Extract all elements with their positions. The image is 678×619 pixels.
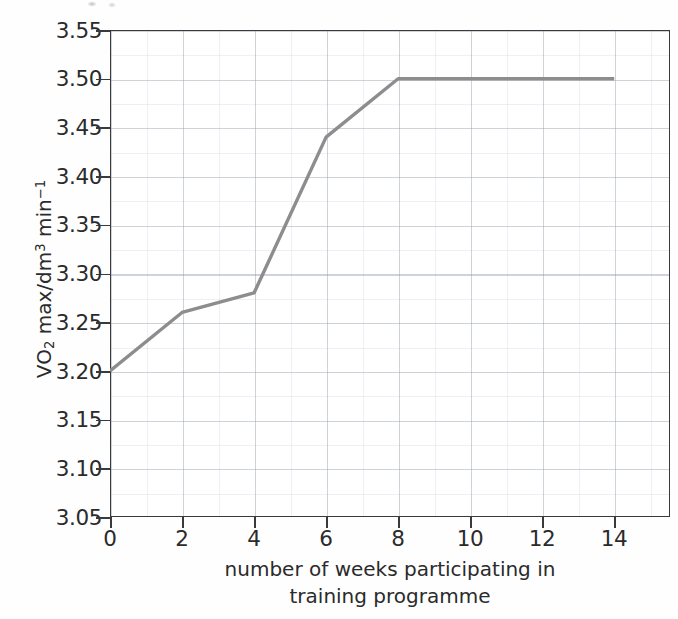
x-tick-label-2: 2 [152,528,212,550]
y-axis-title-mid: max/dm [32,252,56,341]
x-tick-label-14: 14 [584,528,644,550]
y-axis-title-superscript-inverse: −1 [33,180,48,199]
y-tick-mark-3.30 [96,274,110,276]
x-axis-title-line-2: training programme [110,583,670,610]
y-tick-mark-3.35 [96,225,110,227]
y-tick-mark-3.40 [96,176,110,178]
x-tick-label-0: 0 [80,528,140,550]
y-tick-mark-3.05 [96,517,110,519]
x-tick-label-4: 4 [224,528,284,550]
y-tick-mark-3.25 [96,322,110,324]
y-axis-title-superscript-cubic: 3 [33,243,48,251]
y-tick-mark-3.15 [96,420,110,422]
y-axis-title-prefix: VO [32,349,56,378]
y-tick-mark-3.20 [96,371,110,373]
x-tick-label-12: 12 [512,528,572,550]
y-tick-mark-3.55 [96,30,110,32]
x-axis-title-line-1: number of weeks participating in [110,556,670,583]
y-axis-title-subscript: 2 [42,341,57,349]
y-tick-label-3.55: 3.55 [34,20,102,42]
plot-area [110,30,670,517]
y-axis-title: VO2 max/dm3 min−1 [34,79,56,479]
x-axis-title: number of weeks participating in trainin… [110,556,670,609]
y-axis-title-unit: min [32,199,56,243]
x-tick-label-10: 10 [440,528,500,550]
y-tick-mark-3.45 [96,127,110,129]
x-tick-label-6: 6 [296,528,356,550]
y-tick-mark-3.10 [96,468,110,470]
y-tick-mark-3.50 [96,79,110,81]
y-tick-label-3.05: 3.05 [34,507,102,529]
line-chart-figure: 3.55 3.50 3.45 3.40 3.35 3.30 3.25 3.20 … [0,0,678,619]
x-tick-label-8: 8 [368,528,428,550]
